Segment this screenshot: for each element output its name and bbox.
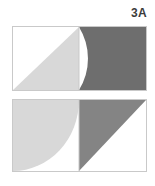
geometric-figure: 3A	[0, 0, 155, 186]
bottom-panel-svg	[12, 99, 147, 172]
top-right-quarter-circle-complement	[79, 27, 146, 90]
bottom-panel	[12, 99, 147, 172]
top-panel	[12, 26, 147, 91]
item-label: 3A	[131, 7, 147, 20]
top-panel-svg	[12, 26, 147, 91]
